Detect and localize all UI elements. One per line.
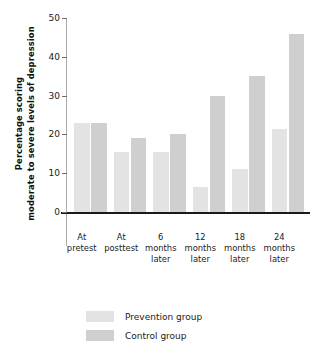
x-axis-label: 6monthslater <box>139 232 183 265</box>
x-axis-label-line: posttest <box>100 243 144 254</box>
y-axis-tick-label: 40 <box>49 52 60 62</box>
bar <box>131 138 147 212</box>
y-axis-title-line-2: moderate to severe levels of depression <box>25 26 37 220</box>
plot-area: 01020304050 <box>66 18 310 212</box>
x-axis-label: Atpretest <box>60 232 104 254</box>
bar <box>153 152 169 212</box>
y-axis-tick-mark <box>62 212 67 213</box>
x-axis-label: Atposttest <box>100 232 144 254</box>
x-axis-label-line: months <box>139 243 183 254</box>
x-axis-label-line: later <box>258 254 302 265</box>
y-axis-tick-label: 10 <box>49 168 60 178</box>
legend-label: Prevention group <box>125 312 202 322</box>
bar <box>210 96 226 212</box>
x-axis-label: 12monthslater <box>179 232 223 265</box>
bar-chart: Percentage scoring moderate to severe le… <box>0 0 326 364</box>
y-axis-tick-mark <box>62 18 67 19</box>
y-axis-tick-mark <box>62 96 67 97</box>
bar <box>289 34 305 212</box>
bar <box>74 123 90 212</box>
x-axis-label-line: later <box>139 254 183 265</box>
x-axis-line <box>61 212 310 214</box>
bar <box>91 123 107 212</box>
x-axis-label: 18monthslater <box>218 232 262 265</box>
bar <box>249 76 265 212</box>
y-axis-tick-mark <box>62 134 67 135</box>
x-axis-label-line: 6 <box>139 232 183 243</box>
x-axis-labels: AtpretestAtposttest6monthslater12monthsl… <box>60 232 316 280</box>
legend-item: Control group <box>86 326 202 345</box>
x-axis-label-line: 24 <box>258 232 302 243</box>
x-axis-label-line: later <box>218 254 262 265</box>
y-axis-tick-label: 20 <box>49 129 60 139</box>
y-axis-tick-label: 50 <box>49 13 60 23</box>
y-axis-title-line-1: Percentage scoring <box>14 26 26 220</box>
x-axis-label: 24monthslater <box>258 232 302 265</box>
chart-legend: Prevention groupControl group <box>86 307 202 345</box>
x-axis-label-line: months <box>258 243 302 254</box>
y-axis-tick-label: 30 <box>49 91 60 101</box>
x-axis-label-line: At <box>60 232 104 243</box>
y-axis-tick-label: 0 <box>54 207 60 217</box>
bar <box>232 169 248 212</box>
x-axis-label-line: At <box>100 232 144 243</box>
y-axis-line <box>66 18 67 212</box>
y-axis-tick-mark <box>62 57 67 58</box>
bar <box>193 187 209 212</box>
bar <box>272 129 288 212</box>
x-axis-label-line: pretest <box>60 243 104 254</box>
x-axis-label-line: months <box>179 243 223 254</box>
x-axis-label-line: months <box>218 243 262 254</box>
y-axis-title: Percentage scoring moderate to severe le… <box>8 0 42 246</box>
legend-item: Prevention group <box>86 307 202 326</box>
bar <box>114 152 130 212</box>
legend-label: Control group <box>125 331 187 341</box>
legend-swatch <box>86 311 114 322</box>
legend-swatch <box>86 330 114 341</box>
x-axis-label-line: later <box>179 254 223 265</box>
x-axis-label-line: 12 <box>179 232 223 243</box>
x-axis-label-line: 18 <box>218 232 262 243</box>
y-axis-tick-mark <box>62 173 67 174</box>
bar <box>170 134 186 212</box>
